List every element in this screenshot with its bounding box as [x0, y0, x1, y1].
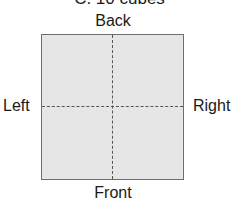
label-left: Left [3, 97, 30, 115]
label-back: Back [0, 12, 226, 30]
horizontal-dashed-line [42, 106, 183, 107]
vertical-dashed-line [112, 35, 113, 179]
label-right: Right [193, 97, 230, 115]
diagram-title: C. 10 cubes [0, 0, 239, 9]
top-view-square [41, 34, 184, 180]
label-front: Front [0, 184, 226, 202]
